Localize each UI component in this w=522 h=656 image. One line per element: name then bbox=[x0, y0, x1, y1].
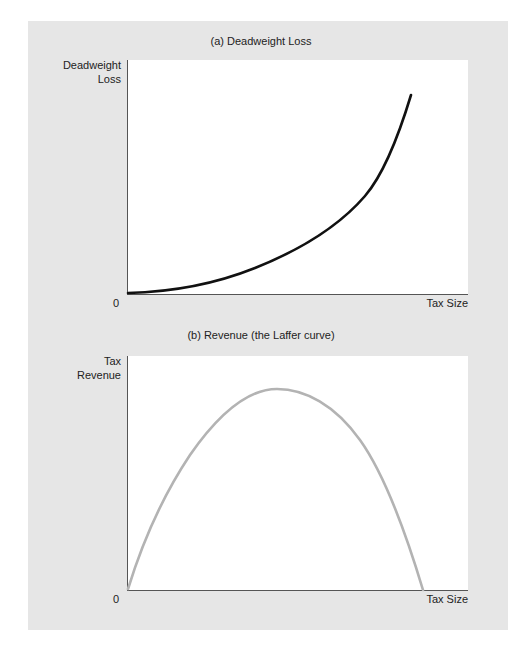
chart-a-plot-area bbox=[127, 60, 468, 294]
charts-svg bbox=[0, 0, 522, 656]
